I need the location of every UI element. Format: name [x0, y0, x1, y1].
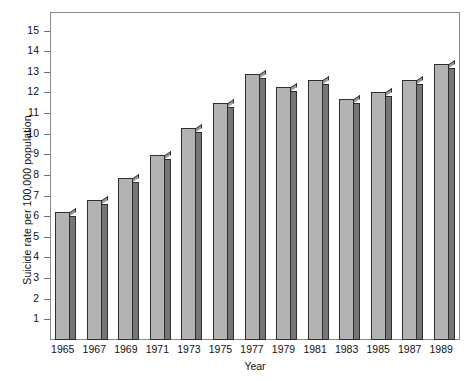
x-tick-label: 1989 [421, 343, 461, 355]
bar [87, 200, 108, 340]
bar-top-face [70, 208, 76, 216]
bar-side-face [70, 216, 76, 340]
y-tick-label: 11 [28, 106, 39, 119]
bar-top-face [386, 89, 392, 97]
y-axis-tick: 8 [0, 175, 50, 176]
bar [402, 80, 423, 340]
y-tick-label: 12 [27, 85, 39, 98]
y-axis-tick: 7 [0, 196, 50, 197]
bar-front-face [55, 212, 70, 340]
bar-front-face [402, 80, 417, 340]
bar [276, 87, 297, 340]
bar-front-face [150, 155, 165, 340]
y-axis-tick: 13 [0, 72, 50, 73]
y-tick-label: 1 [33, 312, 39, 325]
bar [55, 212, 76, 340]
bar [181, 128, 202, 340]
bar-side-face [228, 107, 234, 340]
bar-side-face [449, 68, 455, 340]
bar-front-face [181, 128, 196, 340]
y-axis-tick: 12 [0, 92, 50, 93]
bar-front-face [371, 92, 386, 340]
bar-top-face [228, 99, 234, 107]
bar [339, 99, 360, 340]
bar-side-face [165, 159, 171, 340]
bar [434, 64, 455, 340]
bar-top-face [323, 76, 329, 84]
y-tick-label: 6 [33, 209, 39, 222]
bar-top-face [165, 151, 171, 159]
y-axis-tick: 6 [0, 216, 50, 217]
y-tick-label: 13 [27, 65, 39, 78]
y-axis-tick: 14 [0, 51, 50, 52]
bar-side-face [102, 204, 108, 340]
bar-side-face [291, 91, 297, 340]
y-axis-tick: 5 [0, 237, 50, 238]
bar-side-face [354, 103, 360, 340]
bar-top-face [354, 95, 360, 103]
y-axis-tick: 1 [0, 319, 50, 320]
bar-top-face [133, 174, 139, 182]
y-tick-label: 3 [33, 271, 39, 284]
y-axis-tick: 11 [0, 113, 50, 114]
bar-top-face [417, 76, 423, 84]
bar [213, 103, 234, 340]
y-axis-tick: 9 [0, 154, 50, 155]
bar-side-face [417, 84, 423, 340]
bar-front-face [276, 87, 291, 340]
y-tick-label: 4 [33, 250, 39, 263]
y-tick-label: 15 [27, 24, 39, 37]
bar-front-face [213, 103, 228, 340]
y-tick-label: 14 [27, 44, 39, 57]
bar-top-face [291, 83, 297, 91]
bar-front-face [87, 200, 102, 340]
bar-side-face [133, 182, 139, 340]
bar [308, 80, 329, 340]
bar-top-face [449, 60, 455, 68]
bar-side-face [323, 84, 329, 340]
bar-front-face [245, 74, 260, 340]
y-tick-label: 7 [33, 189, 39, 202]
y-tick-label: 10 [27, 127, 39, 140]
bar-top-face [260, 70, 266, 78]
bar-top-face [102, 196, 108, 204]
y-axis-tick: 4 [0, 257, 50, 258]
bar [118, 178, 139, 340]
bar-front-face [339, 99, 354, 340]
x-axis-labels: 1965196719691971197319751977197919811983… [50, 340, 460, 360]
y-axis-title: Suicide rate per 100,000 population [21, 85, 33, 315]
y-axis-tick: 10 [0, 134, 50, 135]
bar [150, 155, 171, 340]
bar-front-face [434, 64, 449, 340]
y-axis-tick: 3 [0, 278, 50, 279]
bar [371, 92, 392, 340]
bar-side-face [386, 96, 392, 340]
x-axis-title: Year [50, 360, 460, 372]
bar [245, 74, 266, 340]
bar-side-face [196, 132, 202, 340]
bar-top-face [196, 124, 202, 132]
y-tick-label: 8 [33, 168, 39, 181]
bar-front-face [118, 178, 133, 340]
bar-chart: Suicide rate per 100,000 population 1234… [0, 0, 469, 381]
y-axis-tick: 2 [0, 299, 50, 300]
y-axis-tick: 15 [0, 31, 50, 32]
y-tick-label: 9 [33, 147, 39, 160]
bar-side-face [260, 78, 266, 340]
y-tick-label: 2 [33, 292, 39, 305]
bar-front-face [308, 80, 323, 340]
bars-layer [50, 12, 460, 340]
y-tick-label: 5 [33, 230, 39, 243]
